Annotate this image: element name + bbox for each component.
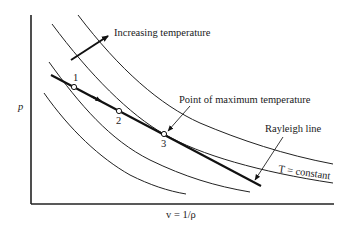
flow-direction-arrow-icon — [92, 97, 101, 102]
rayleigh-line — [51, 75, 261, 186]
max-temperature-label: Point of maximum temperature — [179, 94, 311, 105]
point-2-marker — [116, 108, 121, 113]
rayleigh-line-label: Rayleigh line — [265, 123, 322, 134]
point-1-label: 1 — [73, 72, 78, 83]
increasing-temperature-label: Increasing temperature — [114, 27, 211, 38]
state-points: 1 2 3 — [71, 72, 166, 149]
point-1-marker — [71, 84, 76, 89]
increasing-temperature-arrow-icon — [71, 36, 108, 60]
y-axis-label: p — [17, 101, 23, 112]
point-3-marker — [161, 131, 166, 136]
rayleigh-line-diagram: 1 2 3 Increasing temperature Point of ma… — [0, 0, 354, 231]
point-2-label: 2 — [116, 115, 121, 126]
x-axis-label: v = 1/ρ — [166, 209, 196, 220]
point-3-label: 3 — [161, 138, 166, 149]
max-temperature-leader-arrow-icon — [168, 106, 190, 131]
rayleigh-line-path — [51, 75, 261, 186]
